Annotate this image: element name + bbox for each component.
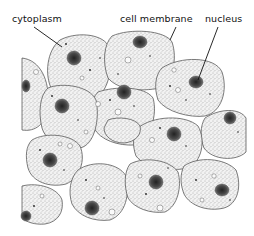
nucleus-shape xyxy=(133,36,147,48)
nucleus-shape xyxy=(149,175,163,189)
cell xyxy=(70,164,127,221)
nucleus-shape xyxy=(22,80,30,92)
cell xyxy=(201,111,246,159)
label-cell-membrane: cell membrane xyxy=(120,13,193,24)
cells-illustration xyxy=(0,0,254,236)
nucleus-shape xyxy=(21,211,31,221)
label-cytoplasm: cytoplasm xyxy=(12,13,62,24)
cell-group xyxy=(22,31,246,224)
nucleus-shape xyxy=(189,76,203,88)
nucleus-shape xyxy=(85,201,99,215)
cell xyxy=(181,160,239,210)
nucleus-shape xyxy=(215,184,229,196)
nucleus-shape xyxy=(55,99,69,113)
nucleus-shape xyxy=(67,51,81,65)
leader-line-cytoplasm xyxy=(34,27,62,47)
cell xyxy=(156,59,225,116)
nucleus-shape xyxy=(43,153,57,167)
nucleus-shape xyxy=(167,127,181,141)
leader-line-cell-membrane xyxy=(170,27,176,40)
nucleus-shape xyxy=(224,112,236,124)
nucleus-shape xyxy=(117,85,131,99)
label-nucleus: nucleus xyxy=(205,13,242,24)
